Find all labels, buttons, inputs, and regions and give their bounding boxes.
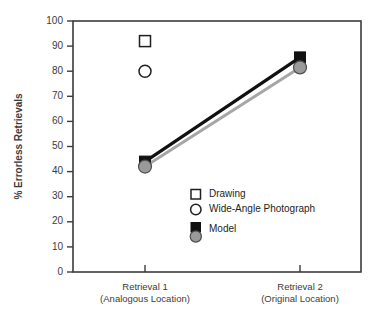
legend-label-model: Model <box>209 223 236 234</box>
data-point-model-circle-retrieval-1 <box>139 160 152 173</box>
legend: Drawing Wide-Angle Photograph Model <box>190 188 315 242</box>
y-axis-tick-labels: 100 90 80 70 60 50 40 30 20 10 0 <box>46 15 63 277</box>
legend-marker-gray-circle-icon <box>190 231 201 242</box>
plot-frame <box>73 21 361 272</box>
y-tick-label-30: 30 <box>52 190 64 201</box>
legend-marker-open-square-icon <box>191 190 201 200</box>
x-tick-sublabel-retrieval-1: (Analogous Location) <box>100 293 190 304</box>
figure-container: 100 90 80 70 60 50 40 30 20 10 0 % Error… <box>0 0 379 325</box>
y-axis-title: % Errorless Retrievals <box>13 93 24 200</box>
y-axis-ticks <box>67 21 73 272</box>
data-point-wide-angle-photograph-retrieval-1 <box>139 65 151 77</box>
x-tick-label-retrieval-2: Retrieval 2 <box>277 281 322 292</box>
x-axis-ticks <box>145 265 300 272</box>
x-tick-label-retrieval-1: Retrieval 1 <box>122 281 167 292</box>
data-point-model-circle-retrieval-2 <box>294 61 307 74</box>
y-tick-label-100: 100 <box>46 15 63 26</box>
legend-label-wide-angle-photograph: Wide-Angle Photograph <box>209 203 315 214</box>
y-tick-label-80: 80 <box>52 65 64 76</box>
errorless-retrievals-line-chart: 100 90 80 70 60 50 40 30 20 10 0 % Error… <box>0 0 379 325</box>
series-line-model-black <box>145 57 300 161</box>
legend-marker-open-circle-icon <box>191 204 201 214</box>
y-tick-label-50: 50 <box>52 140 64 151</box>
y-tick-label-0: 0 <box>57 266 63 277</box>
x-axis-tick-labels: Retrieval 1 (Analogous Location) Retriev… <box>100 281 339 304</box>
x-tick-sublabel-retrieval-2: (Original Location) <box>261 293 339 304</box>
legend-label-drawing: Drawing <box>209 188 246 199</box>
y-tick-label-40: 40 <box>52 165 64 176</box>
y-tick-label-70: 70 <box>52 90 64 101</box>
data-point-drawing-retrieval-1 <box>140 36 151 47</box>
y-tick-label-90: 90 <box>52 40 64 51</box>
series-line-model-gray <box>145 67 300 166</box>
y-tick-label-60: 60 <box>52 115 64 126</box>
y-tick-label-20: 20 <box>52 215 64 226</box>
y-tick-label-10: 10 <box>52 241 64 252</box>
